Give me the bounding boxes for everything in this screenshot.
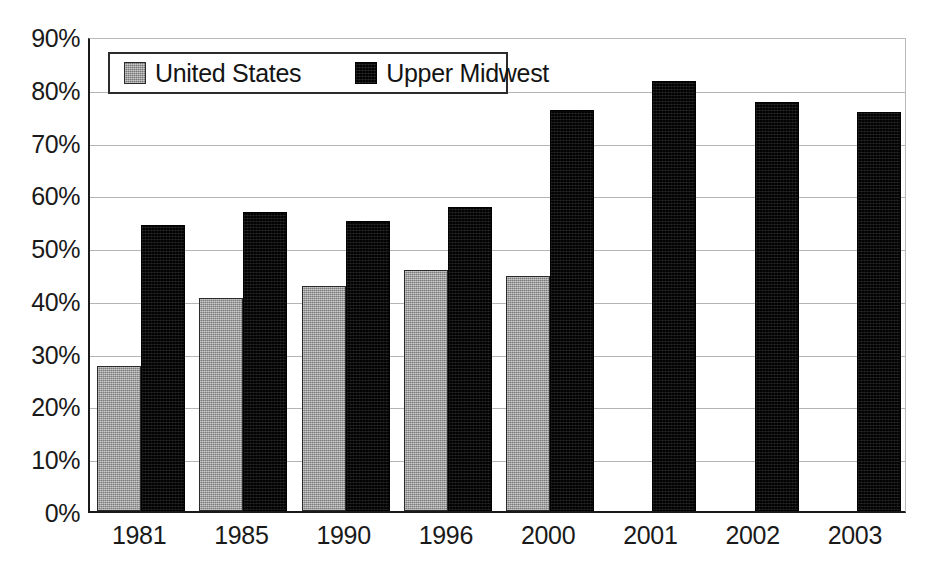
bar-united-states-1981 [97,366,141,511]
bar-upper-midwest-2002 [755,102,799,511]
y-axis-tick-label: 20% [2,395,80,420]
bar-united-states-2000 [506,276,550,511]
bar-group [192,39,294,511]
bar-chart: 0%10%20%30%40%50%60%70%80%90% 1981198519… [0,0,946,583]
x-axis-label-1990: 1990 [293,521,395,550]
bar-group [806,39,908,511]
x-axis-label-2002: 2002 [702,521,804,550]
bar-group [601,39,703,511]
y-axis-tick-label: 70% [2,131,80,156]
x-axis-label-1981: 1981 [88,521,190,550]
legend-entry-upper-midwest: Upper Midwest [355,61,549,86]
bar-united-states-1985 [199,298,243,511]
y-axis-tick-label: 30% [2,342,80,367]
bar-united-states-1990 [302,286,346,511]
chart-legend: United States Upper Midwest [108,52,508,94]
bar-upper-midwest-1996 [448,207,492,511]
legend-label-upper-midwest: Upper Midwest [386,61,549,86]
x-axis-label-2001: 2001 [599,521,701,550]
y-axis-tick-label: 10% [2,448,80,473]
y-axis-tick-label: 0% [2,501,80,526]
legend-entry-united-states: United States [124,61,301,86]
legend-swatch-united-states [124,62,146,84]
y-axis-tick-label: 40% [2,289,80,314]
legend-label-united-states: United States [155,61,301,86]
y-axis-tick-label: 90% [2,26,80,51]
x-axis-category-labels: 19811985199019962000200120022003 [88,521,906,567]
x-axis-label-1996: 1996 [395,521,497,550]
x-axis-label-2003: 2003 [804,521,906,550]
bar-upper-midwest-2001 [652,81,696,511]
x-axis-label-2000: 2000 [497,521,599,550]
bar-upper-midwest-1990 [346,221,390,511]
plot-area [88,38,906,513]
bar-upper-midwest-1981 [141,225,185,511]
bar-upper-midwest-1985 [243,212,287,511]
bar-upper-midwest-2003 [857,112,901,511]
y-axis-tick-label: 50% [2,237,80,262]
bar-group [90,39,192,511]
bar-group [499,39,601,511]
bar-united-states-1996 [404,270,448,511]
bar-group [295,39,397,511]
bar-group [704,39,806,511]
bars-layer [90,39,905,511]
x-axis-label-1985: 1985 [190,521,292,550]
y-axis-tick-label: 80% [2,78,80,103]
y-axis-tick-label: 60% [2,184,80,209]
bar-group [397,39,499,511]
legend-swatch-upper-midwest [355,62,377,84]
bar-upper-midwest-2000 [550,110,594,511]
y-axis-tick-labels: 0%10%20%30%40%50%60%70%80%90% [0,38,80,513]
